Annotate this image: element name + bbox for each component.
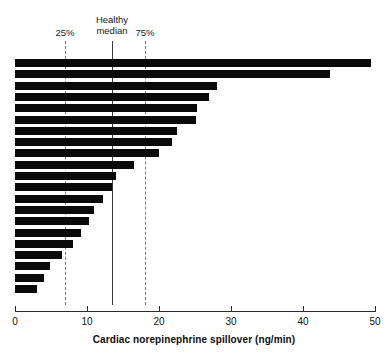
x-axis-tick-label: 10: [72, 316, 102, 328]
x-axis-tick-label: 40: [288, 316, 318, 328]
bar: [15, 262, 50, 270]
bar: [15, 285, 37, 293]
bar: [15, 251, 62, 259]
x-axis-tick: [231, 306, 232, 312]
bar: [15, 229, 81, 237]
bar: [15, 195, 103, 203]
chart-figure: 25% Healthy median 75% 01020304050 Cardi…: [0, 0, 388, 356]
x-axis-tick-label: 30: [216, 316, 246, 328]
x-axis-tick-label: 20: [144, 316, 174, 328]
bar: [15, 127, 177, 135]
x-axis-title: Cardiac norepinephrine spillover (ng/min…: [0, 334, 388, 345]
x-axis-tick-label: 50: [360, 316, 388, 328]
bar: [15, 104, 197, 112]
bar: [15, 93, 209, 101]
x-axis-tick-label: 0: [0, 316, 30, 328]
bar: [15, 161, 134, 169]
x-axis-tick: [303, 306, 304, 312]
bar: [15, 183, 112, 191]
bar: [15, 82, 217, 90]
bar: [15, 70, 330, 78]
plot-area: 01020304050: [0, 0, 388, 356]
bar: [15, 206, 94, 214]
bar: [15, 217, 89, 225]
x-axis-tick: [375, 306, 376, 312]
x-axis-tick: [159, 306, 160, 312]
x-axis-tick: [15, 306, 16, 312]
bar: [15, 172, 116, 180]
x-axis-line: [15, 311, 375, 312]
bar: [15, 138, 172, 146]
bar: [15, 116, 196, 124]
bar: [15, 59, 371, 67]
bar: [15, 274, 44, 282]
bar: [15, 240, 73, 248]
bar: [15, 149, 159, 157]
bars-group: [0, 0, 388, 310]
x-axis-tick: [87, 306, 88, 312]
